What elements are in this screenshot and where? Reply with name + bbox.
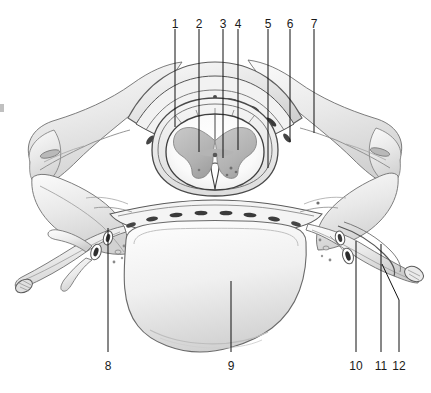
anatomical-figure: 123456789101112 [0,0,431,393]
label-7: 7 [311,18,318,30]
label-12: 12 [392,360,405,372]
label-8: 8 [105,360,112,372]
label-6: 6 [287,18,294,30]
label-3: 3 [220,18,227,30]
label-11: 11 [375,360,387,372]
label-1: 1 [172,18,179,30]
label-2: 2 [196,18,203,30]
vertebra-cross-section-illustration [0,0,431,393]
label-4: 4 [235,18,242,30]
label-10: 10 [349,360,362,372]
label-5: 5 [265,18,272,30]
label-9: 9 [228,360,235,372]
